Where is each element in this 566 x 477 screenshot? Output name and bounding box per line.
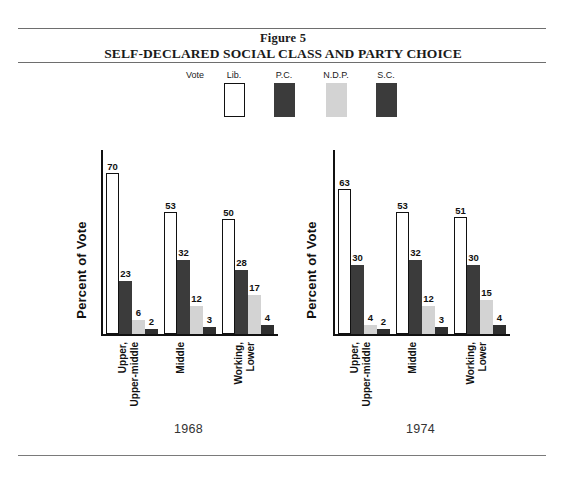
bar-group-middle: 53 32 12 3 — [164, 150, 216, 334]
bar-sc: 3 — [435, 327, 448, 334]
legend-swatch-pc — [274, 83, 295, 117]
bar-ndp: 6 — [132, 320, 145, 334]
bar-value: 23 — [120, 268, 131, 279]
bar-value: 15 — [481, 287, 492, 298]
legend-item-pc: P.C. — [266, 70, 302, 117]
bar-lib: 70 — [106, 173, 119, 334]
bar-value: 32 — [178, 247, 189, 258]
bar-value: 53 — [165, 200, 176, 211]
header-rule-top — [18, 28, 546, 29]
bar-lib: 63 — [338, 189, 351, 334]
bar-value: 50 — [223, 207, 234, 218]
bar-sc: 2 — [145, 329, 158, 334]
x-axis-labels: Upper, Upper-middle Middle Working, Lowe… — [333, 340, 508, 418]
chart-year-label: 1974 — [333, 422, 508, 436]
bar-value: 4 — [265, 312, 270, 323]
x-label-working: Working, Lower — [233, 342, 247, 416]
bar-lib: 53 — [396, 212, 409, 334]
bar-ndp: 15 — [480, 300, 493, 335]
x-label-middle: Middle — [175, 342, 189, 416]
bar-value: 12 — [191, 293, 202, 304]
legend-item-sc: S.C. — [368, 70, 404, 117]
bar-sc: 2 — [377, 329, 390, 334]
bar-pc: 28 — [235, 270, 248, 334]
bar-value: 2 — [149, 316, 154, 327]
bar-sc: 4 — [493, 325, 506, 334]
bar-pc: 30 — [351, 265, 364, 334]
bar-value: 63 — [339, 177, 350, 188]
bar-ndp: 17 — [248, 295, 261, 334]
bar-ndp: 12 — [190, 306, 203, 334]
bar-group-working: 50 28 17 4 — [222, 150, 274, 334]
figure-header: Figure 5 SELF-DECLARED SOCIAL CLASS AND … — [0, 31, 566, 62]
bar-value: 53 — [397, 200, 408, 211]
bar-value: 28 — [236, 257, 247, 268]
bar-value: 70 — [107, 161, 118, 172]
legend-swatch-ndp — [326, 83, 347, 117]
footer-rule — [18, 455, 546, 456]
bar-group-upper: 63 30 4 2 — [338, 150, 390, 334]
x-axis-labels: Upper, Upper-middle Middle Working, Lowe… — [101, 340, 276, 418]
plot-area: 63 30 4 2 53 32 12 3 51 30 15 4 — [333, 150, 510, 336]
legend-label-lib: Lib. — [216, 70, 252, 81]
bar-group-working: 51 30 15 4 — [454, 150, 506, 334]
figure-title: SELF-DECLARED SOCIAL CLASS AND PARTY CHO… — [0, 46, 566, 62]
bar-value: 4 — [497, 312, 502, 323]
bar-group-middle: 53 32 12 3 — [396, 150, 448, 334]
bar-sc: 3 — [203, 327, 216, 334]
legend-item-lib: Lib. — [216, 70, 252, 117]
legend-label-ndp: N.D.P. — [314, 70, 358, 81]
bar-ndp: 12 — [422, 306, 435, 334]
bar-group-upper: 70 23 6 2 — [106, 150, 158, 334]
x-label-upper: Upper, Upper-middle — [349, 342, 363, 416]
legend-item-ndp: N.D.P. — [314, 70, 358, 117]
bar-value: 30 — [352, 252, 363, 263]
bar-pc: 23 — [119, 281, 132, 334]
header-rule-bottom — [18, 62, 546, 63]
bar-value: 6 — [136, 307, 141, 318]
chart-year-label: 1968 — [101, 422, 276, 436]
legend-label-pc: P.C. — [266, 70, 302, 81]
y-axis-label: Percent of Vote — [74, 210, 89, 330]
x-label-upper: Upper, Upper-middle — [117, 342, 131, 416]
bar-value: 3 — [439, 314, 444, 325]
bar-lib: 50 — [222, 219, 235, 334]
chart-1968: Percent of Vote 70 23 6 2 53 32 12 3 50 … — [60, 150, 290, 450]
legend: Vote Lib. P.C. N.D.P. S.C. — [178, 70, 378, 120]
legend-caption: Vote — [178, 70, 212, 81]
bar-lib: 53 — [164, 212, 177, 334]
bar-pc: 30 — [467, 265, 480, 334]
bar-value: 12 — [423, 293, 434, 304]
legend-swatch-sc — [376, 83, 397, 117]
bar-value: 3 — [207, 314, 212, 325]
legend-label-sc: S.C. — [368, 70, 404, 81]
bar-lib: 51 — [454, 217, 467, 334]
bar-ndp: 4 — [364, 325, 377, 334]
bar-value: 17 — [249, 282, 260, 293]
bar-value: 2 — [381, 316, 386, 327]
figure-label: Figure 5 — [0, 31, 566, 46]
bar-value: 32 — [410, 247, 421, 258]
legend-swatch-lib — [224, 83, 245, 117]
bar-value: 51 — [455, 205, 466, 216]
bar-value: 4 — [368, 312, 373, 323]
bar-value: 30 — [468, 252, 479, 263]
chart-1974: Percent of Vote 63 30 4 2 53 32 12 3 51 … — [292, 150, 522, 450]
legend-caption-label: Vote — [178, 70, 212, 81]
plot-area: 70 23 6 2 53 32 12 3 50 28 17 4 — [101, 150, 278, 336]
x-label-working: Working, Lower — [465, 342, 479, 416]
bar-sc: 4 — [261, 325, 274, 334]
y-axis-label: Percent of Vote — [304, 210, 319, 330]
x-label-middle: Middle — [407, 342, 421, 416]
bar-pc: 32 — [409, 260, 422, 334]
bar-pc: 32 — [177, 260, 190, 334]
